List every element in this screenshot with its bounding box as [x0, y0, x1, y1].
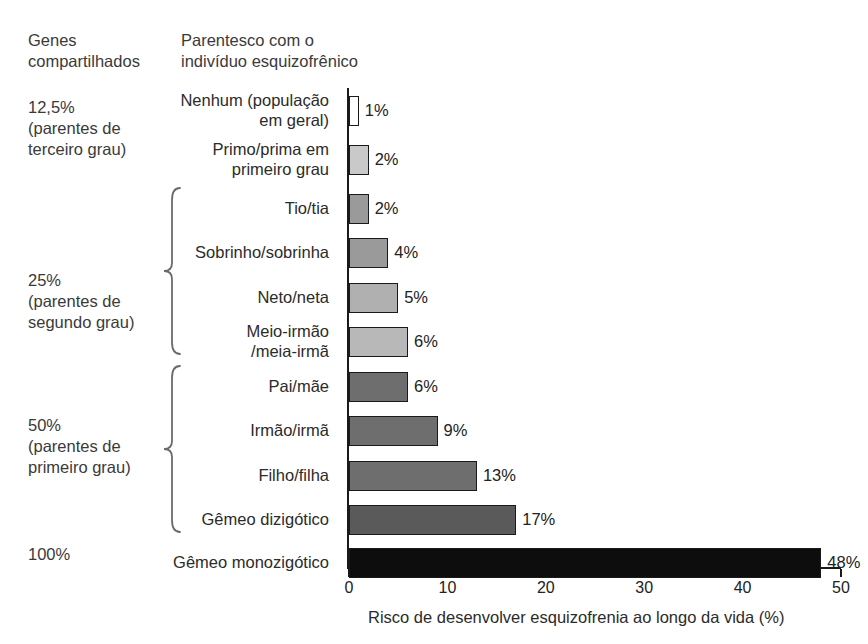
bar-value-label: 2% [375, 199, 399, 218]
bar-value-label: 6% [414, 332, 438, 351]
bar [349, 327, 408, 357]
bar-value-label: 13% [483, 466, 516, 485]
x-tick-label-30: 30 [635, 579, 653, 597]
category-label: Pai/mãe [9, 376, 339, 396]
x-axis-title: Risco de desenvolver esquizofrenia ao lo… [368, 608, 784, 627]
bar-value-label: 2% [375, 150, 399, 169]
schizophrenia-risk-chart: Genes compartilhados Parentesco com o in… [0, 0, 868, 644]
category-label: Primo/prima em primeiro grau [9, 139, 339, 179]
bar-value-label: 48% [827, 553, 860, 572]
x-tick-label-0: 0 [345, 579, 354, 597]
category-label: Neto/neta [9, 287, 339, 307]
x-tick-label-40: 40 [734, 579, 752, 597]
bar [349, 372, 408, 402]
category-label: Filho/filha [9, 465, 339, 485]
category-label: Tio/tia [9, 198, 339, 218]
bar [349, 194, 369, 224]
bar-value-label: 9% [444, 421, 468, 440]
x-tick-label-10: 10 [438, 579, 456, 597]
category-label: Irmão/irmã [9, 420, 339, 440]
bar [349, 96, 359, 126]
plot-area: 01020304050 Nenhum (população em geral)1… [0, 0, 868, 644]
bar [349, 145, 369, 175]
bar-value-label: 4% [394, 243, 418, 262]
bar-value-label: 5% [404, 288, 428, 307]
category-label: Gêmeo monozigótico [9, 552, 339, 572]
bar [349, 283, 398, 313]
category-label: Gêmeo dizigótico [9, 509, 339, 529]
category-label: Meio-irmão /meia-irmã [9, 321, 339, 361]
bar [349, 505, 516, 535]
x-tick-label-50: 50 [832, 579, 850, 597]
category-label: Sobrinho/sobrinha [9, 242, 339, 262]
bar-value-label: 17% [522, 510, 555, 529]
bar [349, 548, 821, 578]
bar [349, 416, 438, 446]
bar-value-label: 6% [414, 377, 438, 396]
category-label: Nenhum (população em geral) [9, 90, 339, 130]
bar [349, 238, 388, 268]
bar [349, 461, 477, 491]
x-tick-label-20: 20 [537, 579, 555, 597]
bar-value-label: 1% [365, 101, 389, 120]
